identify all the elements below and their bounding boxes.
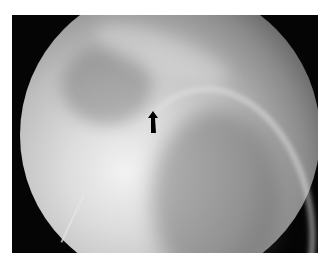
radiograph-frame (12, 15, 318, 253)
arrow-up-icon (148, 111, 158, 133)
